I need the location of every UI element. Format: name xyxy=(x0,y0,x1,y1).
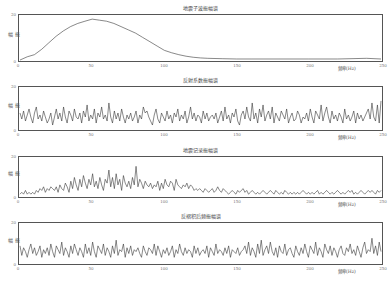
plot-area xyxy=(18,222,383,265)
y-tick-label: 0 xyxy=(6,128,16,133)
panel-title: 反射系数振幅谱 xyxy=(183,76,218,83)
x-axis-label: 频率(Hz) xyxy=(338,201,356,207)
y-tick-label: 20 xyxy=(6,84,16,89)
x-tick-label: 50 xyxy=(88,63,93,68)
panel-title: 地震子波振幅谱 xyxy=(183,4,218,11)
x-tick-label: 250 xyxy=(379,199,387,204)
x-tick-label: 200 xyxy=(306,63,314,68)
x-tick-label: 150 xyxy=(233,199,241,204)
spectrum-line xyxy=(19,15,382,61)
panel-title: 反褶积后频振幅谱 xyxy=(181,212,221,219)
x-tick-label: 200 xyxy=(306,199,314,204)
spectrum-line xyxy=(19,157,382,197)
plot-area xyxy=(18,14,383,62)
plot-area xyxy=(18,156,383,198)
x-axis-label: 频率(Hz) xyxy=(338,268,356,274)
y-tick-label: 20 xyxy=(6,220,16,225)
x-tick-label: 0 xyxy=(17,63,20,68)
y-tick-label: 20 xyxy=(6,12,16,17)
x-tick-label: 0 xyxy=(17,132,20,137)
x-axis-label: 频率(Hz) xyxy=(338,65,356,71)
x-tick-label: 50 xyxy=(88,266,93,271)
x-tick-label: 0 xyxy=(17,199,20,204)
spectrum-line xyxy=(19,87,382,130)
y-tick-label: 20 xyxy=(6,154,16,159)
x-tick-label: 200 xyxy=(306,266,314,271)
x-tick-label: 100 xyxy=(160,199,168,204)
x-tick-label: 100 xyxy=(160,63,168,68)
x-tick-label: 250 xyxy=(379,63,387,68)
x-tick-label: 50 xyxy=(88,199,93,204)
plot-area xyxy=(18,86,383,131)
y-axis-label: 振幅 xyxy=(7,238,21,242)
spectrum-line xyxy=(19,223,382,264)
y-tick-label: 0 xyxy=(6,262,16,267)
x-tick-label: 0 xyxy=(17,266,20,271)
x-tick-label: 250 xyxy=(379,266,387,271)
x-tick-label: 50 xyxy=(88,132,93,137)
x-tick-label: 150 xyxy=(233,132,241,137)
y-tick-label: 0 xyxy=(6,59,16,64)
y-axis-label: 振幅 xyxy=(7,171,21,175)
x-tick-label: 150 xyxy=(233,63,241,68)
x-tick-label: 200 xyxy=(306,132,314,137)
panel-title: 地震记录振幅谱 xyxy=(183,146,218,153)
y-tick-label: 0 xyxy=(6,195,16,200)
y-axis-label: 振幅 xyxy=(7,103,21,107)
x-tick-label: 100 xyxy=(160,266,168,271)
x-tick-label: 150 xyxy=(233,266,241,271)
y-axis-label: 振幅 xyxy=(7,32,21,36)
x-tick-label: 100 xyxy=(160,132,168,137)
x-tick-label: 250 xyxy=(379,132,387,137)
x-axis-label: 频率(Hz) xyxy=(338,134,356,140)
